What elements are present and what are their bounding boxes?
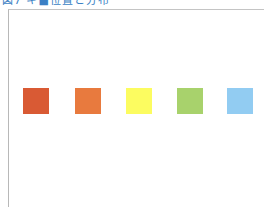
color-swatch-orange [75,88,101,114]
color-swatch-yellow [126,88,152,114]
color-swatch-green [177,88,203,114]
color-swatch-red-orange [23,88,49,114]
figure-title: 図7 キ■位置と分布 [2,0,110,7]
color-swatch-light-blue [227,88,253,114]
